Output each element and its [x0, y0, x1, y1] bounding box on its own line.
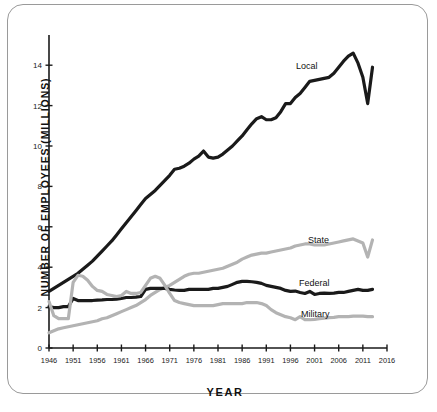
x-tick-label: 1971 — [161, 356, 177, 365]
series-label-layer: LocalStateFederalMilitary — [296, 61, 330, 319]
page-root: NUMBER OF EMPLOYEES (MILLIONS) YEAR 0246… — [0, 0, 437, 412]
series-label-military: Military — [301, 309, 330, 319]
x-tick-label: 1986 — [234, 356, 250, 365]
x-tick-label: 2001 — [306, 356, 322, 365]
y-tick-label: 8 — [38, 182, 43, 191]
y-tick-label: 14 — [33, 61, 42, 70]
series-label-local: Local — [296, 61, 318, 71]
y-tick-label: 0 — [38, 344, 43, 353]
x-tick-label: 1996 — [282, 356, 298, 365]
y-tick-label: 10 — [33, 142, 42, 151]
x-tick-label: 2006 — [330, 356, 346, 365]
x-tick-label: 1976 — [186, 356, 202, 365]
y-tick-label: 4 — [38, 263, 43, 272]
x-tick-label: 1951 — [65, 356, 81, 365]
series-layer — [49, 53, 373, 333]
line-chart: 0246810121419461951195619611966197119761… — [8, 5, 428, 394]
x-tick-label: 1991 — [258, 356, 274, 365]
y-tick-label: 12 — [33, 102, 42, 111]
series-label-federal: Federal — [299, 278, 330, 288]
figure-card: NUMBER OF EMPLOYEES (MILLIONS) YEAR 0246… — [7, 4, 428, 394]
y-tick-label: 6 — [38, 223, 43, 232]
x-tick-label: 1966 — [137, 356, 153, 365]
x-tick-label: 2011 — [355, 356, 371, 365]
x-tick-label: 1981 — [210, 356, 226, 365]
series-line-local — [49, 53, 373, 291]
x-tick-label: 1946 — [41, 356, 57, 365]
x-tick-label: 2016 — [379, 356, 395, 365]
series-label-state: State — [308, 235, 329, 245]
x-tick-label: 1961 — [113, 356, 129, 365]
y-tick-label: 2 — [38, 304, 43, 313]
x-tick-label: 1956 — [89, 356, 105, 365]
